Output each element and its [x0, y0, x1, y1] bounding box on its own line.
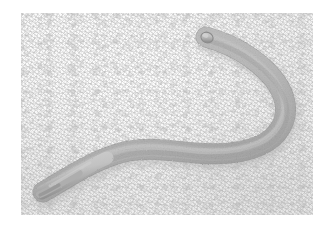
- nematode-worm: [21, 13, 313, 215]
- figure-root: [0, 0, 329, 232]
- specimen-layer: [21, 13, 313, 215]
- photo-plate: [21, 13, 313, 215]
